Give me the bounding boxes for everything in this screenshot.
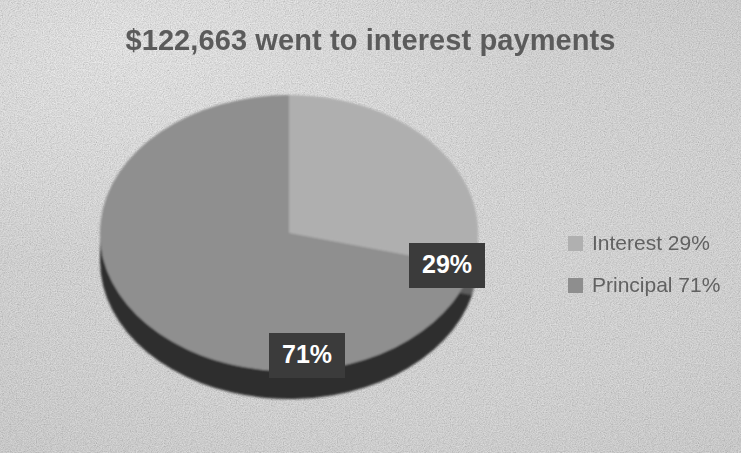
legend-swatch-icon-principal xyxy=(568,278,583,293)
data-label-principal: 71% xyxy=(269,333,345,378)
data-label-interest: 29% xyxy=(409,243,485,288)
legend-item-principal[interactable]: Principal 71% xyxy=(568,264,733,306)
pie-chart-image: $122,663 went to interest payments xyxy=(0,0,741,453)
legend-item-interest[interactable]: Interest 29% xyxy=(568,222,733,264)
chart-title: $122,663 went to interest payments xyxy=(0,24,741,57)
legend-label-principal: Principal 71% xyxy=(592,273,720,297)
chart-legend: Interest 29% Principal 71% xyxy=(568,222,733,306)
pie-grain-overlay xyxy=(100,95,478,371)
legend-label-interest: Interest 29% xyxy=(592,231,710,255)
legend-swatch-icon-interest xyxy=(568,236,583,251)
pie-chart-graphic: 29% 71% xyxy=(92,84,492,414)
